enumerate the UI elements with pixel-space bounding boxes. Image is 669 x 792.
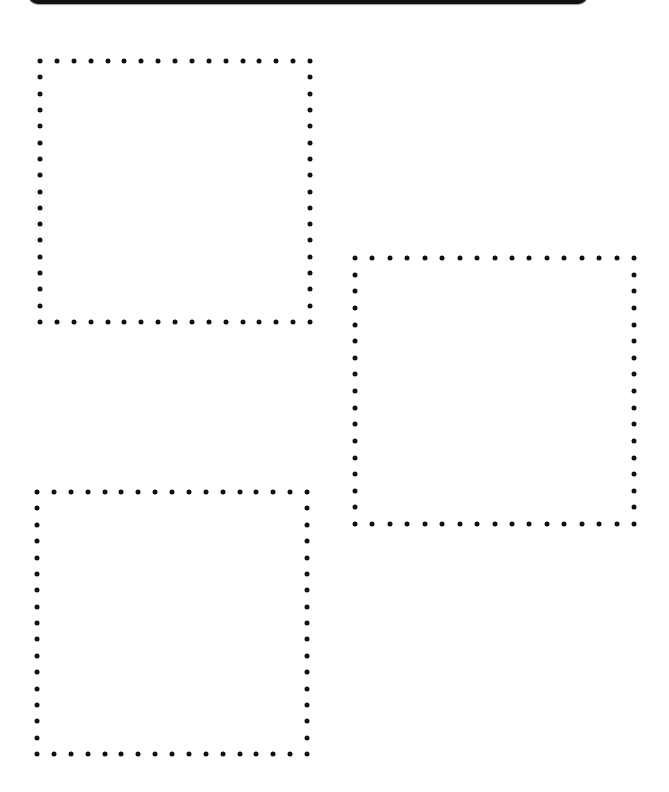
border-dot bbox=[122, 320, 127, 325]
border-dot bbox=[291, 59, 296, 64]
border-dot bbox=[54, 59, 59, 64]
border-dot bbox=[35, 571, 40, 576]
border-dot bbox=[38, 107, 43, 112]
border-dot bbox=[35, 621, 40, 626]
border-dot bbox=[54, 320, 59, 325]
border-dot bbox=[274, 59, 279, 64]
border-dot bbox=[305, 506, 310, 511]
border-dot bbox=[632, 405, 637, 410]
border-dot bbox=[305, 719, 310, 724]
border-dot bbox=[632, 522, 637, 527]
border-dot bbox=[220, 752, 225, 757]
border-dot bbox=[223, 59, 228, 64]
border-dot bbox=[223, 320, 228, 325]
border-dot bbox=[38, 124, 43, 129]
border-dot bbox=[492, 256, 497, 261]
border-dot bbox=[457, 522, 462, 527]
border-dot bbox=[220, 490, 225, 495]
border-dot bbox=[632, 256, 637, 261]
border-dot bbox=[305, 686, 310, 691]
border-dot bbox=[305, 621, 310, 626]
border-dot bbox=[308, 173, 313, 178]
border-dot bbox=[308, 59, 313, 64]
border-dot bbox=[305, 604, 310, 609]
border-dot bbox=[173, 320, 178, 325]
border-dot bbox=[353, 455, 358, 460]
border-dot bbox=[35, 702, 40, 707]
border-dot bbox=[353, 438, 358, 443]
border-dot bbox=[71, 59, 76, 64]
drawing-box-3[interactable] bbox=[37, 492, 307, 754]
border-dot bbox=[119, 752, 124, 757]
border-dot bbox=[288, 752, 293, 757]
border-dot bbox=[291, 320, 296, 325]
border-dot bbox=[156, 320, 161, 325]
border-dot bbox=[632, 389, 637, 394]
border-dot bbox=[38, 140, 43, 145]
border-dot bbox=[38, 271, 43, 276]
border-dot bbox=[632, 322, 637, 327]
border-dot bbox=[71, 320, 76, 325]
border-dot bbox=[308, 205, 313, 210]
border-dot bbox=[562, 522, 567, 527]
border-dot bbox=[509, 256, 514, 261]
border-dot bbox=[122, 59, 127, 64]
border-dot bbox=[305, 555, 310, 560]
border-dot bbox=[632, 355, 637, 360]
border-dot bbox=[105, 320, 110, 325]
border-dot bbox=[308, 107, 313, 112]
border-dot bbox=[305, 637, 310, 642]
border-dot bbox=[257, 320, 262, 325]
border-dot bbox=[51, 752, 56, 757]
border-dot bbox=[254, 490, 259, 495]
border-dot bbox=[579, 522, 584, 527]
border-dot bbox=[308, 238, 313, 243]
border-dot bbox=[68, 490, 73, 495]
border-dot bbox=[271, 752, 276, 757]
border-dot bbox=[305, 588, 310, 593]
drawing-box-1[interactable] bbox=[40, 61, 310, 322]
border-dot bbox=[614, 256, 619, 261]
border-dot bbox=[85, 752, 90, 757]
border-dot bbox=[51, 490, 56, 495]
border-dot bbox=[38, 320, 43, 325]
border-dot bbox=[173, 59, 178, 64]
border-dot bbox=[38, 156, 43, 161]
border-dot bbox=[632, 438, 637, 443]
border-dot bbox=[139, 59, 144, 64]
border-dot bbox=[35, 752, 40, 757]
border-dot bbox=[353, 389, 358, 394]
border-dot bbox=[632, 488, 637, 493]
border-dot bbox=[119, 490, 124, 495]
border-dot bbox=[387, 522, 392, 527]
border-dot bbox=[38, 238, 43, 243]
border-dot bbox=[156, 59, 161, 64]
border-dot bbox=[136, 752, 141, 757]
border-dot bbox=[353, 305, 358, 310]
border-dot bbox=[308, 254, 313, 259]
border-dot bbox=[632, 455, 637, 460]
border-dot bbox=[35, 555, 40, 560]
border-dot bbox=[632, 305, 637, 310]
border-dot bbox=[136, 490, 141, 495]
border-dot bbox=[305, 571, 310, 576]
border-dot bbox=[240, 59, 245, 64]
border-dot bbox=[186, 490, 191, 495]
border-dot bbox=[597, 522, 602, 527]
border-dot bbox=[257, 59, 262, 64]
border-dot bbox=[35, 490, 40, 495]
border-dot bbox=[308, 271, 313, 276]
border-dot bbox=[308, 320, 313, 325]
border-dot bbox=[544, 256, 549, 261]
border-dot bbox=[632, 372, 637, 377]
border-dot bbox=[139, 320, 144, 325]
border-dot bbox=[405, 256, 410, 261]
drawing-box-2[interactable] bbox=[355, 258, 634, 524]
border-dot bbox=[35, 604, 40, 609]
border-dot bbox=[544, 522, 549, 527]
border-dot bbox=[308, 156, 313, 161]
border-dot bbox=[632, 339, 637, 344]
border-dot bbox=[305, 522, 310, 527]
border-dot bbox=[203, 752, 208, 757]
border-dot bbox=[68, 752, 73, 757]
